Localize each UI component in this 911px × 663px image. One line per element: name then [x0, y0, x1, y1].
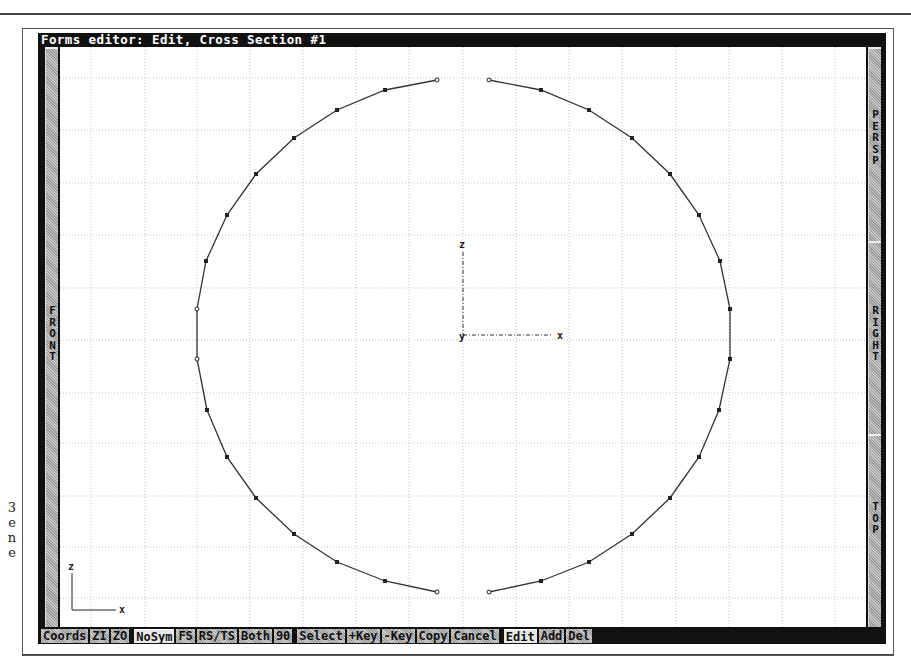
fs-button[interactable]: FS [176, 629, 194, 643]
both-button[interactable]: Both [239, 629, 272, 643]
select-button[interactable]: Select [297, 629, 344, 643]
margin-char: e [0, 515, 16, 530]
margin-char: n [0, 530, 16, 545]
window-title: Forms editor: Edit, Cross Section #1 [41, 33, 326, 46]
view-tab-top-label: TOP [869, 501, 882, 536]
origin-x-label: x [557, 330, 563, 341]
page-rule-bottom [22, 654, 893, 655]
corner-axis-indicator: z x [68, 561, 125, 615]
delete-mode-button[interactable]: Del [566, 629, 592, 643]
cross-section-drawing[interactable]: z x y z x [60, 47, 866, 627]
margin-char: 3 [0, 500, 16, 515]
view-tab-top[interactable]: TOP [868, 434, 881, 627]
copy-button[interactable]: Copy [417, 629, 450, 643]
page-margin-text: 3 e n e [0, 500, 16, 560]
edit-mode-button[interactable]: Edit [504, 629, 537, 643]
remove-key-button[interactable]: -Key [382, 629, 415, 643]
origin-y-label: y [459, 331, 465, 342]
page-rule-top [0, 13, 911, 15]
forms-editor-window: Forms editor: Edit, Cross Section #1 F R… [38, 33, 886, 644]
view-tab-right[interactable]: RIGHT [868, 241, 881, 434]
coords-button[interactable]: Coords [41, 629, 88, 643]
corner-x-label: x [119, 604, 125, 615]
command-toolbar: Coords ZI ZO NoSym FS RS/TS Both 90 Sele… [41, 629, 594, 643]
add-key-button[interactable]: +Key [347, 629, 380, 643]
view-tab-persp-label: PERSP [869, 109, 882, 167]
zoom-out-button[interactable]: ZO [111, 629, 129, 643]
view-tab-front-label: F R O N T [46, 305, 59, 363]
view-tab-front[interactable]: F R O N T [45, 47, 58, 627]
cancel-button[interactable]: Cancel [451, 629, 498, 643]
corner-z-label: z [68, 561, 74, 572]
view-tab-right-label: RIGHT [869, 305, 882, 363]
margin-char: e [0, 545, 16, 560]
view-tab-persp[interactable]: PERSP [868, 47, 881, 241]
editor-canvas[interactable]: z x y z x [60, 47, 866, 627]
origin-axes: z x y [459, 239, 563, 342]
nosym-button[interactable]: NoSym [134, 629, 174, 643]
rs-ts-button[interactable]: RS/TS [197, 629, 237, 643]
open-end-points[interactable] [195, 78, 491, 594]
rotate-90-button[interactable]: 90 [274, 629, 292, 643]
zoom-in-button[interactable]: ZI [90, 629, 108, 643]
control-points[interactable] [204, 88, 732, 583]
origin-z-label: z [459, 239, 465, 250]
add-mode-button[interactable]: Add [539, 629, 565, 643]
